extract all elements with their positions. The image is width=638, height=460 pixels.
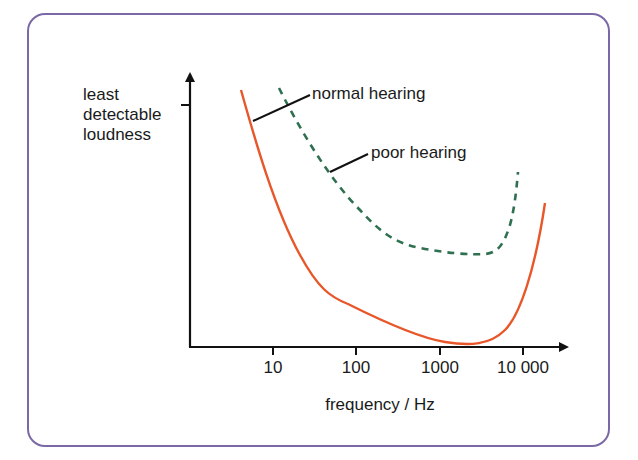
ylabel-line-2: detectable — [83, 105, 161, 125]
x-tick-label-100: 100 — [342, 358, 370, 378]
x-tick-label-10: 10 — [264, 358, 283, 378]
x-tick-label-10000: 10 000 — [497, 358, 549, 378]
normal-hearing-leader — [253, 95, 310, 121]
x-tick-label-1000: 1000 — [421, 358, 459, 378]
poor-hearing-label: poor hearing — [371, 143, 466, 163]
poor-hearing-leader — [330, 154, 368, 172]
poor-hearing-curve — [279, 88, 518, 254]
x-ticks — [273, 347, 523, 355]
normal-hearing-curve — [241, 90, 545, 344]
chart-canvas — [0, 0, 638, 460]
ylabel-line-3: loudness — [83, 125, 161, 145]
x-axis-label: frequency / Hz — [325, 395, 435, 415]
y-axis-label: least detectable loudness — [83, 85, 161, 145]
ylabel-line-1: least — [83, 85, 161, 105]
normal-hearing-label: normal hearing — [312, 84, 425, 104]
